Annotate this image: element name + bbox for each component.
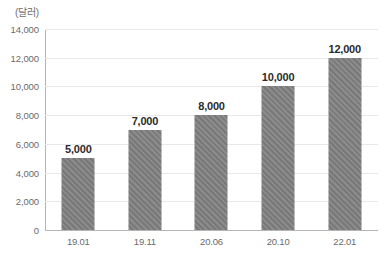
y-tick-label: 14,000 xyxy=(0,24,39,35)
y-tick-label: 8,000 xyxy=(0,110,39,121)
y-tick-label: 0 xyxy=(0,225,39,236)
bar-value-label: 10,000 xyxy=(262,71,294,83)
bar-value-label: 12,000 xyxy=(328,43,360,55)
bar-value-label: 8,000 xyxy=(198,100,225,112)
bar-chart: (달러) 02,0004,0006,0008,00010,00012,00014… xyxy=(0,0,390,256)
bar-value-label: 5,000 xyxy=(65,143,92,155)
y-tick-label: 12,000 xyxy=(0,52,39,63)
y-tick-label: 6,000 xyxy=(0,138,39,149)
bar[interactable] xyxy=(128,130,161,231)
y-tick-label: 10,000 xyxy=(0,81,39,92)
y-axis-unit-label: (달러) xyxy=(15,4,39,19)
y-tick-label: 4,000 xyxy=(0,167,39,178)
bar-group[interactable]: 8,000 xyxy=(178,29,245,230)
plot-area: 5,0007,0008,00010,00012,000 xyxy=(45,29,378,230)
bar[interactable] xyxy=(195,115,228,230)
y-tick-label: 2,000 xyxy=(0,196,39,207)
bar-group[interactable]: 5,000 xyxy=(45,29,112,230)
bar-group[interactable]: 10,000 xyxy=(245,29,312,230)
bar-value-label: 7,000 xyxy=(132,115,159,127)
bar[interactable] xyxy=(262,86,295,230)
x-tick-label: 19.11 xyxy=(112,236,179,247)
x-tick-label: 19.01 xyxy=(45,236,112,247)
bar[interactable] xyxy=(328,58,361,230)
bar-group[interactable]: 12,000 xyxy=(311,29,378,230)
bar[interactable] xyxy=(62,158,95,230)
bar-group[interactable]: 7,000 xyxy=(112,29,179,230)
x-tick-label: 22.01 xyxy=(311,236,378,247)
axis-baseline xyxy=(45,230,378,231)
x-tick-label: 20.06 xyxy=(178,236,245,247)
x-tick-label: 20.10 xyxy=(245,236,312,247)
